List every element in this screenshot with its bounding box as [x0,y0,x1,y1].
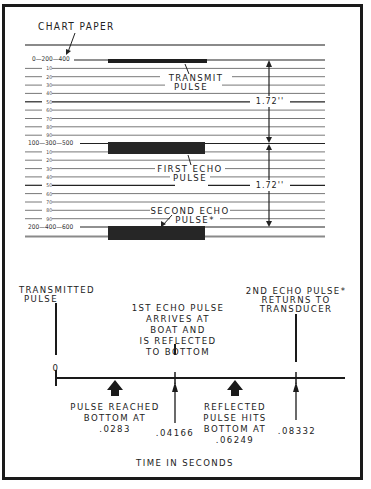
reflected-label-1: REFLECTED [190,401,280,412]
pulse-reached-label-1: PULSE REACHED [65,401,165,412]
tick-90: 90 [42,132,52,138]
tick-60: 60 [42,191,52,197]
transmitted-pulse-label-2: PULSE [12,293,70,304]
tick-40: 40 [42,90,52,96]
first-echo-pulse-bar [108,142,205,154]
tick-20: 20 [42,74,52,80]
second-echo-label-2: PULSE* [170,214,220,225]
tick-20: 20 [42,157,52,163]
first-echo-event-label-4: IS REFLECTED [128,335,228,346]
first-echo-event-label-1: 1ST ECHO PULSE [128,302,228,313]
tick-70: 70 [42,199,52,205]
dimension-label-lower: 1.72'' [250,180,290,191]
first-echo-event-label-3: BOAT AND [128,324,228,335]
second-echo-time: .08332 [272,425,322,436]
tick-10: 10 [42,65,52,71]
pulse-reached-label-2: BOTTOM AT [65,412,165,423]
time-axis-label: TIME IN SECONDS [100,457,270,468]
tick-50: 50 [42,99,52,105]
reflected-time: .06249 [190,434,280,445]
tick-80: 80 [42,207,52,213]
tick-80: 80 [42,124,52,130]
row-label-0-200-400: 0—200—400 [32,56,70,63]
transmit-pulse-bar [108,59,207,63]
tick-90: 90 [42,216,52,222]
tick-30: 30 [42,166,52,172]
first-echo-event-label-2: ARRIVES AT [128,313,228,324]
zero-label: 0 [51,362,61,373]
tick-40: 40 [42,174,52,180]
dimension-label-upper: 1.72'' [250,96,290,107]
reflected-label-3: BOTTOM AT [190,423,280,434]
row-label-200-400-600: 200—400—600 [28,224,73,231]
row-label-100-300-500: 100—300—500 [28,140,73,147]
second-echo-pulse-bar [108,226,205,240]
chart-paper-title: CHART PAPER [38,21,115,32]
tick-30: 30 [42,82,52,88]
transmit-pulse-label-2: PULSE [160,81,222,92]
tick-60: 60 [42,107,52,113]
tick-70: 70 [42,116,52,122]
first-echo-label-2: PULSE [170,172,210,183]
first-echo-event-label-5: TO BOTTOM [128,346,228,357]
tick-50: 50 [42,182,52,188]
second-echo-event-label-3: TRANSDUCER [244,303,348,314]
tick-10: 10 [42,149,52,155]
reflected-label-2: PULSE HITS [190,412,280,423]
